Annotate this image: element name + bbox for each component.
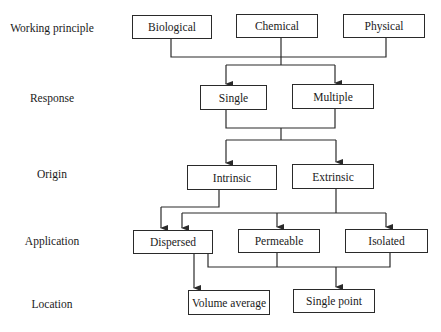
node-dispersed: Dispersed <box>133 230 213 254</box>
row-label-origin: Origin <box>0 167 104 181</box>
node-single-point: Single point <box>293 289 375 313</box>
node-volume-average: Volume average <box>188 290 270 315</box>
row-label-application: Application <box>0 234 104 248</box>
node-permeable: Permeable <box>238 229 320 253</box>
node-single: Single <box>200 85 267 110</box>
row-label-working-principle: Working principle <box>0 21 104 35</box>
node-extrinsic: Extrinsic <box>292 164 374 189</box>
node-isolated: Isolated <box>345 229 428 253</box>
row-label-location: Location <box>0 297 104 311</box>
node-physical: Physical <box>343 14 425 38</box>
node-chemical: Chemical <box>236 14 318 38</box>
node-intrinsic: Intrinsic <box>187 165 277 190</box>
row-label-response: Response <box>0 91 104 105</box>
node-biological: Biological <box>132 15 212 39</box>
node-multiple: Multiple <box>292 84 374 109</box>
